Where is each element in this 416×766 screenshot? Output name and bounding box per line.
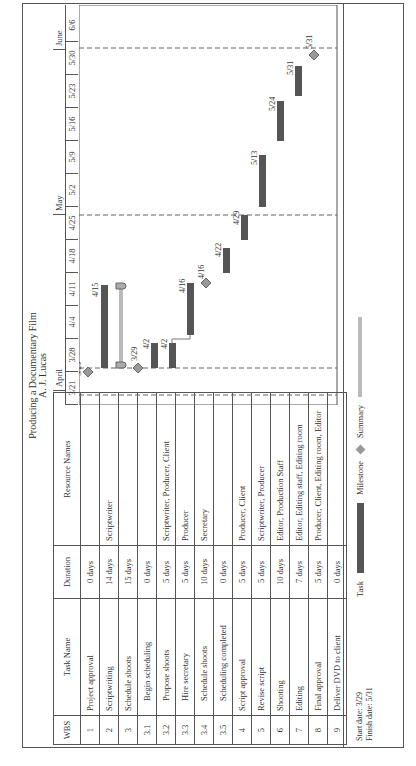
task-name: Script approval [233, 599, 252, 716]
task-name: Scheduling completed [214, 599, 233, 716]
month-june: June [53, 30, 65, 50]
svg-text:4/2: 4/2 [160, 339, 169, 349]
bar-final-approval: 5/31 [286, 61, 302, 96]
legend-summary-swatch [358, 317, 362, 397]
legend-summary-label: Summary [355, 405, 365, 438]
task-name: Propose shoots [157, 599, 176, 716]
resources: Editor, Production Staff [271, 393, 290, 546]
wbs: 2 [100, 716, 119, 745]
resources: Producer, Client [233, 393, 252, 546]
col-duration: Duration [54, 546, 81, 599]
table-row: 5Revise script5 daysScriptwriter, Produc… [252, 393, 271, 745]
gantt-page: Producing a Documentary Film A. J. Lucas… [0, 0, 416, 766]
wbs: 4 [233, 716, 252, 745]
svg-text:4/2: 4/2 [142, 339, 151, 349]
task-name: Begin scheduling [138, 599, 157, 716]
resources [138, 393, 157, 546]
week-tick: 4/25 [66, 207, 78, 240]
wbs: 7 [290, 716, 309, 745]
resources: Secretary [195, 393, 214, 546]
table-row: 1Project approval0 days [81, 393, 100, 745]
resources [119, 393, 138, 546]
duration: 14 days [100, 546, 119, 599]
week-tick: 4/11 [66, 273, 78, 306]
table-header-row: WBS Task Name Duration Resource Names [54, 393, 81, 745]
chart-frame: Producing a Documentary Film A. J. Lucas… [22, 3, 404, 748]
resources [81, 393, 100, 546]
resources: Scriptwriter, Producer, Client [157, 393, 176, 546]
legend: Task Milestone Summary [355, 317, 365, 597]
col-task-name: Task Name [54, 599, 81, 716]
table-row: 7Editing7 daysEditor, Editing staff, Edi… [290, 393, 309, 745]
milestone-project-approval: 3/29 [79, 362, 93, 377]
resources [214, 393, 233, 546]
svg-text:5/24: 5/24 [268, 97, 277, 111]
svg-text:4/22: 4/22 [214, 243, 223, 257]
wbs: 3.1 [138, 716, 157, 745]
resources: Producer, Client, Editing room, Editor [309, 393, 328, 546]
legend-task-swatch [357, 503, 364, 573]
resources: Scriptwriter [100, 393, 119, 546]
week-tick: 3/21 [66, 372, 78, 405]
week-tick: 5/9 [66, 141, 78, 174]
month-may: May [53, 195, 65, 215]
wbs: 1 [81, 716, 100, 745]
summary-schedule-shoots [116, 283, 126, 368]
wbs: 3 [119, 716, 138, 745]
bar-schedule-shoots: 4/16 [172, 279, 194, 343]
start-date: Start date: 3/29 [355, 687, 365, 741]
table-row: 3Schedule shoots15 days [119, 393, 138, 745]
week-tick: 5/16 [66, 108, 78, 141]
bar-script-approval: 4/22 [214, 243, 230, 273]
task-name: Hire secretary [176, 599, 195, 716]
duration: 5 days [157, 546, 176, 599]
week-tick: 6/6 [66, 9, 78, 42]
legend-divider [343, 4, 344, 747]
duration: 0 days [214, 546, 233, 599]
col-resource-names: Resource Names [54, 393, 81, 546]
chart-author: A. J. Lucas [37, 4, 49, 747]
task-table: WBS Task Name Duration Resource Names 1P… [53, 392, 347, 745]
svg-text:3/29: 3/29 [130, 347, 139, 361]
task-name: Schedule shoots [119, 599, 138, 716]
resources: Editor, Editing staff, Editing room [290, 393, 309, 546]
table-row: 2Scriptwriting14 daysScriptwriter [100, 393, 119, 745]
duration: 5 days [176, 546, 195, 599]
col-wbs: WBS [54, 716, 81, 745]
table-row: 8Final approval5 daysProducer, Client, E… [309, 393, 328, 745]
table-row: 3.2Propose shoots5 daysScriptwriter, Pro… [157, 393, 176, 745]
wbs: 5 [252, 716, 271, 745]
task-name: Editing [290, 599, 309, 716]
svg-text:4/16: 4/16 [197, 265, 206, 279]
duration: 0 days [81, 546, 100, 599]
bar-hire-secretary: 4/2 [160, 339, 176, 368]
duration: 5 days [309, 546, 328, 599]
month-april: April [53, 369, 65, 391]
week-tick: 4/18 [66, 240, 78, 273]
bar-scriptwriting: 4/15 [91, 283, 108, 368]
svg-text:4/16: 4/16 [178, 279, 187, 293]
wbs: 3.3 [176, 716, 195, 745]
table-row: 6Shooting10 daysEditor, Production Staff [271, 393, 290, 745]
table-row: 3.1Begin scheduling0 days [138, 393, 157, 745]
wbs: 3.2 [157, 716, 176, 745]
legend-milestone-icon [355, 445, 365, 455]
bar-shooting: 5/13 [250, 151, 266, 207]
gantt-area: 3/29 4/15 3/29 4/2 [79, 5, 339, 405]
wbs: 8 [309, 716, 328, 745]
finish-date: Finish date: 5/31 [365, 687, 375, 741]
duration: 5 days [252, 546, 271, 599]
legend-milestone-label: Milestone [355, 461, 365, 495]
resources: Producer [176, 393, 195, 546]
milestone-deliver-dvd: 5/31 [305, 35, 319, 60]
project-dates: Start date: 3/29 Finish date: 5/31 [355, 687, 375, 741]
duration: 10 days [271, 546, 290, 599]
milestone-begin-scheduling: 3/29 [130, 347, 143, 373]
week-tick: 5/2 [66, 174, 78, 207]
wbs: 3.4 [195, 716, 214, 745]
legend-task-label: Task [355, 581, 365, 597]
svg-text:4/29: 4/29 [232, 211, 241, 225]
svg-text:4/15: 4/15 [91, 283, 100, 297]
week-tick: 3/28 [66, 339, 78, 372]
duration: 7 days [290, 546, 309, 599]
